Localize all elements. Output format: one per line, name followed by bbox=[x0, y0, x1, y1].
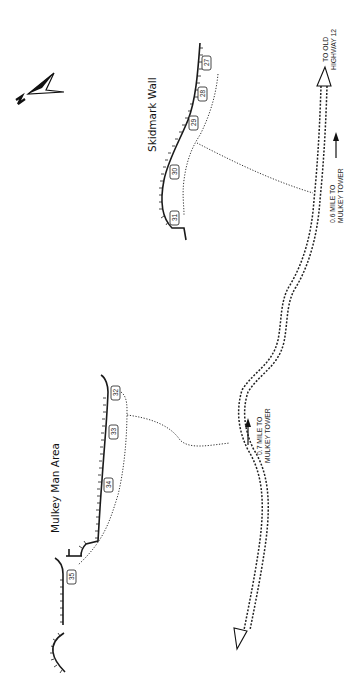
svg-text:33: 33 bbox=[110, 427, 117, 435]
bottom-curved-cliff bbox=[50, 633, 65, 673]
to-highway-label-line1: TO OLD bbox=[322, 37, 329, 62]
svg-text:32: 32 bbox=[112, 388, 119, 396]
route-label-28[interactable]: 28 bbox=[198, 87, 207, 101]
tower-07-label-line2: MULKEY TOWER bbox=[264, 408, 271, 463]
svg-text:34: 34 bbox=[105, 480, 112, 488]
route-label-35[interactable]: 35 bbox=[67, 570, 76, 584]
mulkey-connector-trail bbox=[127, 415, 230, 446]
route-label-27[interactable]: 27 bbox=[202, 56, 211, 70]
route-label-32[interactable]: 32 bbox=[111, 386, 120, 400]
route-label-31[interactable]: 31 bbox=[170, 211, 179, 225]
skidmark-wall-label: Skidmark Wall bbox=[146, 77, 158, 152]
route-35-cliff bbox=[55, 558, 63, 625]
svg-text:30: 30 bbox=[171, 167, 178, 175]
to-highway-label-line2: HIGHWAY 12 bbox=[330, 29, 337, 70]
route-label-29[interactable]: 29 bbox=[189, 116, 198, 130]
tower-07-label-line1: 0.7 MILE TO bbox=[256, 417, 263, 455]
route-label-34[interactable]: 34 bbox=[104, 478, 113, 492]
mulkey-man-area-label: Mulkey Man Area bbox=[49, 443, 61, 533]
svg-text:29: 29 bbox=[190, 118, 197, 126]
dirt-road bbox=[239, 86, 327, 630]
svg-text:35: 35 bbox=[68, 572, 75, 580]
climbing-area-map: 27 28 29 30 31 Skidmark Wall TO OLD HIGH… bbox=[0, 0, 362, 695]
skidmark-connector-trail bbox=[197, 143, 313, 193]
skidmark-wall-cliff bbox=[159, 43, 203, 240]
mulkey-man-cliff bbox=[66, 375, 108, 556]
svg-text:28: 28 bbox=[199, 89, 206, 97]
tower-06-label-line1: 0.6 MILE TO bbox=[329, 185, 336, 223]
north-n-glyph bbox=[16, 96, 25, 104]
svg-text:27: 27 bbox=[203, 58, 210, 66]
svg-text:31: 31 bbox=[171, 213, 178, 221]
direction-arrow-06-icon bbox=[333, 132, 339, 158]
tower-06-label-line2: MULKEY TOWER bbox=[337, 168, 344, 223]
road-arrow-south-icon bbox=[234, 628, 247, 649]
route-label-33[interactable]: 33 bbox=[109, 425, 118, 439]
route-label-30[interactable]: 30 bbox=[170, 165, 179, 179]
road-arrow-highway-icon bbox=[317, 67, 331, 86]
north-arrow-icon bbox=[16, 73, 64, 104]
